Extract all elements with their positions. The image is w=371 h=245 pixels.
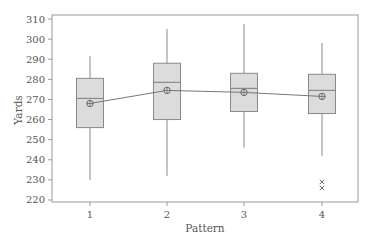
y-tick-label: 230	[26, 174, 45, 185]
box-3	[231, 24, 258, 148]
mean-marker	[319, 93, 325, 99]
box-4	[309, 43, 336, 190]
y-tick-label: 250	[26, 134, 45, 145]
x-axis-label: Pattern	[185, 222, 225, 234]
mean-marker	[241, 89, 247, 95]
y-tick-label: 220	[26, 194, 45, 205]
mean-marker	[87, 100, 93, 106]
outlier-marker	[320, 180, 324, 184]
outlier-marker	[320, 186, 324, 190]
x-tick-label: 2	[164, 209, 170, 220]
x-tick-label: 3	[241, 209, 247, 220]
y-tick-label: 270	[26, 94, 45, 105]
x-tick-label: 1	[87, 209, 93, 220]
mean-polyline	[90, 90, 322, 103]
y-tick-label: 260	[26, 114, 45, 125]
x-tick-label: 4	[319, 209, 325, 220]
mean-marker	[164, 87, 170, 93]
box-plot-chart: 220230240250260270280290300310 1234 Yard…	[0, 0, 371, 245]
y-tick-label: 280	[26, 74, 45, 85]
y-tick-label: 310	[26, 14, 45, 25]
y-axis-label: Yards	[12, 95, 24, 126]
y-tick-label: 300	[26, 34, 45, 45]
box-1	[77, 56, 104, 180]
box-2	[154, 29, 181, 176]
y-axis: 220230240250260270280290300310	[26, 14, 52, 206]
mean-connect-line	[87, 87, 325, 106]
y-tick-label: 240	[26, 154, 45, 165]
y-tick-label: 290	[26, 54, 45, 65]
boxes	[77, 24, 336, 190]
x-axis: 1234	[87, 202, 325, 220]
